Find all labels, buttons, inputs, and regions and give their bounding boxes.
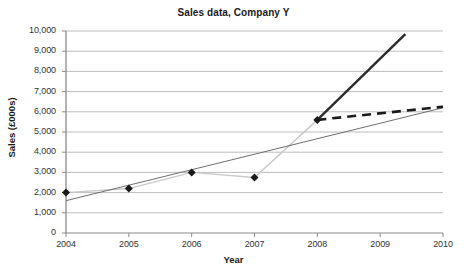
x-axis-ticks [66,233,443,237]
y-axis-tick-label: 3,000 [12,166,56,176]
y-axis-tick-label: 2,000 [12,187,56,197]
y-axis-tick-label: 7,000 [12,86,56,96]
x-axis-tick-label: 2004 [46,239,86,249]
x-axis-tick-label: 2009 [360,239,400,249]
x-axis-title: Year [0,254,467,265]
series-line [317,34,405,120]
y-axis-tick-label: 1,000 [12,207,56,217]
y-axis-tick-label: 8,000 [12,65,56,75]
x-axis-tick-label: 2006 [172,239,212,249]
chart-container: Sales data, Company Y 01,0002,0003,0004,… [0,0,467,277]
chart-plot-area [0,0,467,277]
data-point-markers [62,116,321,197]
y-axis-tick-label: 5,000 [12,126,56,136]
series-line [66,108,443,201]
x-axis-tick-label: 2007 [235,239,275,249]
y-axis-title: Sales (£000s) [6,73,17,183]
y-axis-tick-label: 10,000 [12,25,56,35]
series-line [66,120,317,193]
x-axis-tick-label: 2010 [423,239,463,249]
y-axis-tick-label: 9,000 [12,45,56,55]
data-point-marker [188,168,196,176]
y-axis-tick-label: 6,000 [12,106,56,116]
data-point-marker [62,189,70,197]
x-axis-tick-label: 2005 [109,239,149,249]
series-line [317,107,443,120]
y-axis-tick-label: 0 [12,227,56,237]
y-axis-tick-label: 4,000 [12,146,56,156]
x-axis-tick-label: 2008 [297,239,337,249]
